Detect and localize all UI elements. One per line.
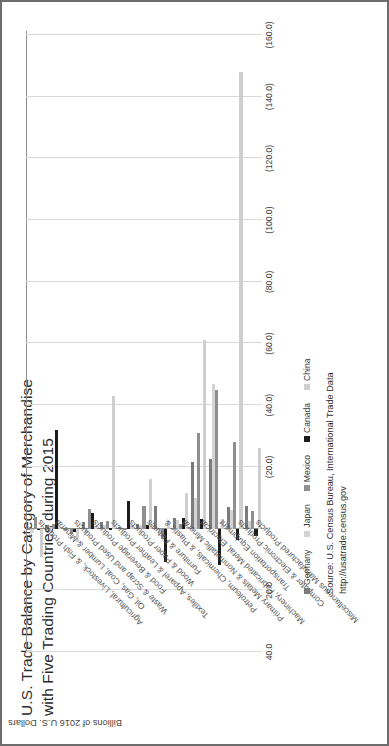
legend-item-china[interactable]: China (302, 358, 312, 389)
source-line-1: Source: U.S. Census Bureau, Internationa… (324, 372, 337, 594)
legend-label: Germany (302, 550, 312, 585)
chart-page: U.S. Trade Balance by Category of Mercha… (0, 0, 389, 746)
legend-label: Canada (302, 403, 312, 433)
legend-swatch-icon (304, 531, 310, 537)
value-axis-title: Billions of 2016 U.S. Dollars (8, 718, 122, 728)
legend-swatch-icon (304, 485, 310, 491)
legend-item-germany[interactable]: Germany (302, 550, 312, 594)
legend-label: Japan (302, 504, 312, 527)
legend-label: Mexico (302, 455, 312, 482)
source-note: Source: U.S. Census Bureau, Internationa… (324, 372, 351, 594)
source-line-2: http://usatrade.census.gov (337, 372, 350, 594)
rotated-page-wrapper: U.S. Trade Balance by Category of Mercha… (0, 0, 389, 746)
legend-item-canada[interactable]: Canada (302, 403, 312, 442)
legend-swatch-icon (304, 588, 310, 594)
legend-label: China (302, 358, 312, 380)
legend-swatch-icon (304, 436, 310, 442)
legend-swatch-icon (304, 384, 310, 390)
legend-item-japan[interactable]: Japan (302, 504, 312, 536)
chart-legend: GermanyJapanMexicoCanadaChina (302, 358, 312, 594)
legend-item-mexico[interactable]: Mexico (302, 455, 312, 491)
